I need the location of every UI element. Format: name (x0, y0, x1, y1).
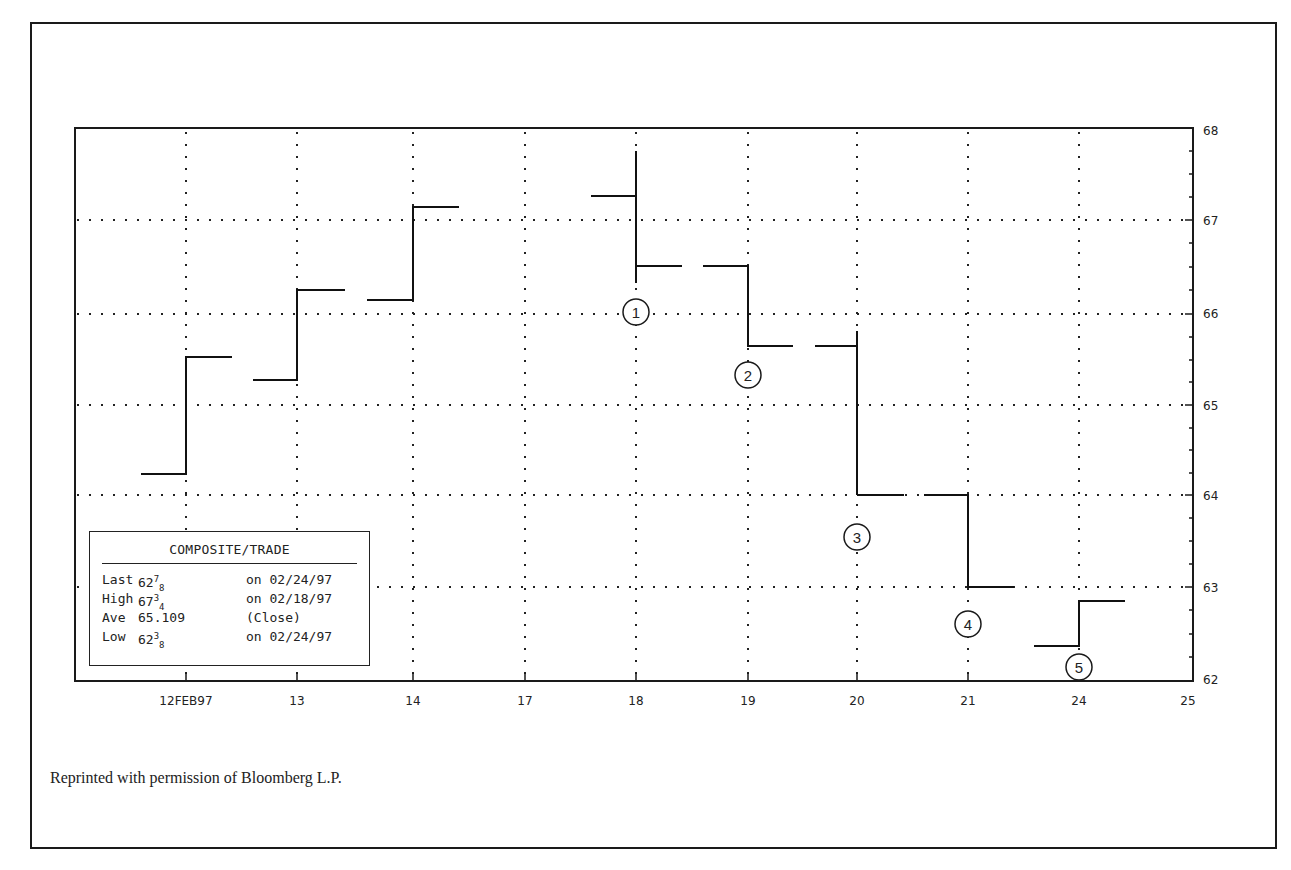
legend-value: 6238 (138, 627, 246, 646)
legend-key: Low (102, 627, 138, 646)
y-axis-labels: 68 67 66 65 64 63 62 (1203, 124, 1218, 687)
legend-row-ave: Ave 65.109 (Close) (90, 608, 369, 627)
marker-5: 5 (1066, 654, 1092, 680)
price-step-19 (703, 266, 793, 346)
marker-3: 3 (844, 524, 870, 550)
x-label: 21 (960, 694, 975, 708)
legend-detail: (Close) (246, 608, 301, 627)
legend-detail: on 02/18/97 (246, 589, 332, 608)
legend-detail: on 02/24/97 (246, 627, 332, 646)
legend-detail: on 02/24/97 (246, 570, 332, 589)
marker-4: 4 (955, 611, 981, 637)
price-step-13 (253, 290, 345, 380)
price-chart: 1 2 3 4 5 68 67 66 65 64 63 62 12FEB97 1… (0, 0, 1291, 870)
svg-text:2: 2 (744, 367, 752, 384)
legend-row-high: High 6734 on 02/18/97 (90, 589, 369, 608)
x-label: 19 (740, 694, 755, 708)
y-label: 68 (1203, 124, 1218, 138)
svg-text:4: 4 (964, 616, 972, 633)
legend-row-low: Low 6238 on 02/24/97 (90, 627, 369, 646)
legend-value: 6734 (138, 589, 246, 608)
legend-key: High (102, 589, 138, 608)
legend-title: COMPOSITE/TRADE (90, 542, 369, 557)
credit-line: Reprinted with permission of Bloomberg L… (50, 769, 342, 787)
legend-row-last: Last 6278 on 02/24/97 (90, 570, 369, 589)
x-axis-ticks (186, 673, 1079, 681)
price-step-24 (1034, 601, 1125, 646)
price-step-14 (367, 207, 459, 300)
y-axis-ticks (1185, 151, 1193, 657)
legend-key: Last (102, 570, 138, 589)
x-label: 13 (289, 694, 304, 708)
x-label: 20 (849, 694, 864, 708)
y-label: 66 (1203, 307, 1218, 321)
price-step-12feb97 (141, 357, 232, 474)
legend-key: Ave (102, 608, 138, 627)
x-axis-labels: 12FEB97 13 14 17 18 19 20 21 24 25 (159, 694, 1195, 708)
marker-2: 2 (735, 362, 761, 388)
y-label: 62 (1203, 673, 1218, 687)
x-label: 17 (517, 694, 532, 708)
legend-value: 6278 (138, 570, 246, 589)
y-label: 63 (1203, 581, 1218, 595)
y-label: 65 (1203, 399, 1218, 413)
x-label: 14 (405, 694, 420, 708)
svg-text:5: 5 (1075, 659, 1083, 676)
svg-text:3: 3 (853, 529, 861, 546)
legend-value: 65.109 (138, 608, 246, 627)
x-label: 24 (1071, 694, 1086, 708)
x-label: 18 (628, 694, 643, 708)
price-step-21 (924, 495, 1014, 587)
x-label: 25 (1180, 694, 1195, 708)
y-label: 64 (1203, 489, 1218, 503)
y-label: 67 (1203, 214, 1218, 228)
chart-legend-box: COMPOSITE/TRADE Last 6278 on 02/24/97 Hi… (89, 531, 370, 666)
legend-divider (102, 563, 357, 564)
marker-1: 1 (623, 299, 649, 325)
x-label: 12FEB97 (159, 694, 212, 708)
svg-text:1: 1 (632, 304, 640, 321)
